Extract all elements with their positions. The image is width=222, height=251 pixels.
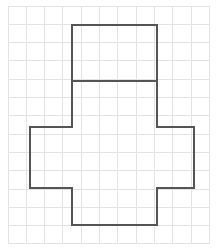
cube-net-outline	[30, 25, 194, 225]
diagram-canvas	[0, 0, 222, 251]
figure-svg	[0, 0, 222, 251]
cube-net-shape	[30, 25, 194, 225]
grid-layer	[8, 6, 209, 244]
